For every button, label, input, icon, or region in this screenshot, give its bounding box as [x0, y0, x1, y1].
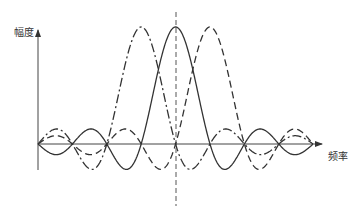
y-axis-label: 幅度	[14, 24, 34, 39]
x-axis-label: 频率	[328, 148, 348, 163]
subcarrier-spectrum-diagram	[0, 0, 360, 218]
